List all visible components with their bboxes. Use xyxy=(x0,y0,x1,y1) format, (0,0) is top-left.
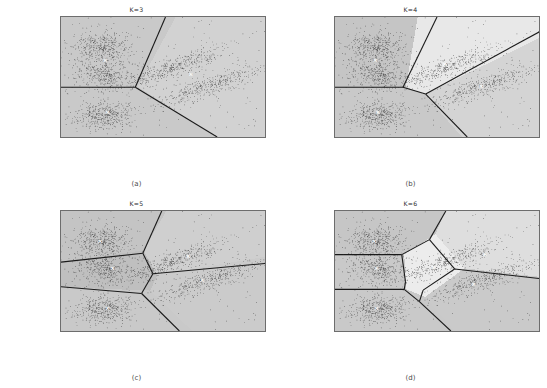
x-axis-tick-mark xyxy=(101,331,102,332)
x-axis-tick-mark xyxy=(176,331,177,332)
subplot-panel-d: K=6 ××××××543210−1−2−3−5−4−3−2−1012 (d) xyxy=(274,194,547,388)
y-axis-tick-mark xyxy=(60,254,61,255)
y-axis-tick-mark xyxy=(334,88,335,89)
x-axis-tick-mark xyxy=(450,331,451,332)
y-axis-tick-mark xyxy=(60,268,61,269)
y-axis-tick-mark xyxy=(334,241,335,242)
y-axis-tick-mark xyxy=(60,88,61,89)
y-axis-tick-mark xyxy=(334,254,335,255)
subplot-panel-b: K=4 ××××543210−1−2−3−5−4−3−2−1012 (b) xyxy=(274,0,547,194)
y-axis-tick-mark xyxy=(60,227,61,228)
subplot-panel-c: K=5 ×××××543210−1−2−3−5−4−3−2−1012 (c) xyxy=(0,194,273,388)
subplot-panel-a: K=3 ×××543210−1−2−3−5−4−3−2−1012 (a) xyxy=(0,0,273,194)
x-axis-tick-mark xyxy=(252,137,253,138)
y-axis-tick-mark xyxy=(334,60,335,61)
y-axis-tick-mark xyxy=(60,282,61,283)
scatter-points-d xyxy=(335,211,539,331)
x-axis-tick-mark xyxy=(202,137,203,138)
x-axis-tick-mark xyxy=(151,331,152,332)
panel-caption-c: (c) xyxy=(0,374,273,382)
panel-title-b: K=4 xyxy=(274,6,547,13)
x-axis-tick-mark xyxy=(151,137,152,138)
x-axis-tick-mark xyxy=(400,331,401,332)
y-axis-tick-mark xyxy=(60,19,61,20)
plot-area-c: ×××××543210−1−2−3−5−4−3−2−1012 xyxy=(60,210,266,332)
y-axis-tick-mark xyxy=(60,309,61,310)
x-axis-tick-mark xyxy=(425,331,426,332)
y-axis-tick-mark xyxy=(334,268,335,269)
x-axis-tick-mark xyxy=(76,137,77,138)
x-axis-tick-mark xyxy=(501,137,502,138)
x-axis-tick-mark xyxy=(526,137,527,138)
x-axis-tick-mark xyxy=(252,331,253,332)
y-axis-tick-mark xyxy=(334,213,335,214)
y-axis-tick-mark xyxy=(60,241,61,242)
scatter-points-c xyxy=(61,211,265,331)
y-axis-tick-mark xyxy=(334,282,335,283)
x-axis-tick-mark xyxy=(202,331,203,332)
x-axis-tick-mark xyxy=(450,137,451,138)
x-axis-tick-mark xyxy=(126,137,127,138)
y-axis-tick-mark xyxy=(334,33,335,34)
panel-caption-d: (d) xyxy=(274,374,547,382)
y-axis-tick-mark xyxy=(60,33,61,34)
panel-title-a: K=3 xyxy=(0,6,273,13)
y-axis-tick-mark xyxy=(334,128,335,129)
x-axis-tick-mark xyxy=(375,137,376,138)
y-axis-tick-mark xyxy=(334,19,335,20)
y-axis-tick-mark xyxy=(334,74,335,75)
x-axis-tick-mark xyxy=(400,137,401,138)
y-axis-tick-mark xyxy=(60,74,61,75)
x-axis-tick-mark xyxy=(501,331,502,332)
y-axis-tick-mark xyxy=(334,322,335,323)
y-axis-tick-mark xyxy=(60,101,61,102)
y-axis-tick-mark xyxy=(60,60,61,61)
y-axis-tick-mark xyxy=(334,47,335,48)
scatter-points-a xyxy=(61,17,265,137)
y-axis-tick-mark xyxy=(60,128,61,129)
x-axis-tick-mark xyxy=(126,331,127,332)
y-axis-tick-mark xyxy=(60,47,61,48)
panel-title-d: K=6 xyxy=(274,200,547,207)
panel-caption-b: (b) xyxy=(274,180,547,188)
scatter-points-b xyxy=(335,17,539,137)
kmeans-voronoi-figure: K=3 ×××543210−1−2−3−5−4−3−2−1012 (a) K=4… xyxy=(0,0,547,388)
plot-area-d: ××××××543210−1−2−3−5−4−3−2−1012 xyxy=(334,210,540,332)
y-axis-tick-mark xyxy=(334,227,335,228)
x-axis-tick-mark xyxy=(375,331,376,332)
y-axis-tick-mark xyxy=(334,309,335,310)
y-axis-tick-mark xyxy=(334,101,335,102)
y-axis-tick-mark xyxy=(334,295,335,296)
x-axis-tick-mark xyxy=(227,331,228,332)
x-axis-tick-mark xyxy=(476,137,477,138)
y-axis-tick-mark xyxy=(60,322,61,323)
x-axis-tick-mark xyxy=(425,137,426,138)
y-axis-tick-mark xyxy=(60,295,61,296)
y-axis-tick-mark xyxy=(60,213,61,214)
y-axis-tick-mark xyxy=(334,115,335,116)
plot-area-a: ×××543210−1−2−3−5−4−3−2−1012 xyxy=(60,16,266,138)
x-axis-tick-mark xyxy=(76,331,77,332)
y-axis-tick-mark xyxy=(60,115,61,116)
x-axis-tick-mark xyxy=(176,137,177,138)
x-axis-tick-mark xyxy=(227,137,228,138)
panel-title-c: K=5 xyxy=(0,200,273,207)
x-axis-tick-mark xyxy=(101,137,102,138)
x-axis-tick-mark xyxy=(526,331,527,332)
panel-caption-a: (a) xyxy=(0,180,273,188)
x-axis-tick-mark xyxy=(350,331,351,332)
x-axis-tick-mark xyxy=(350,137,351,138)
x-axis-tick-mark xyxy=(476,331,477,332)
plot-area-b: ××××543210−1−2−3−5−4−3−2−1012 xyxy=(334,16,540,138)
